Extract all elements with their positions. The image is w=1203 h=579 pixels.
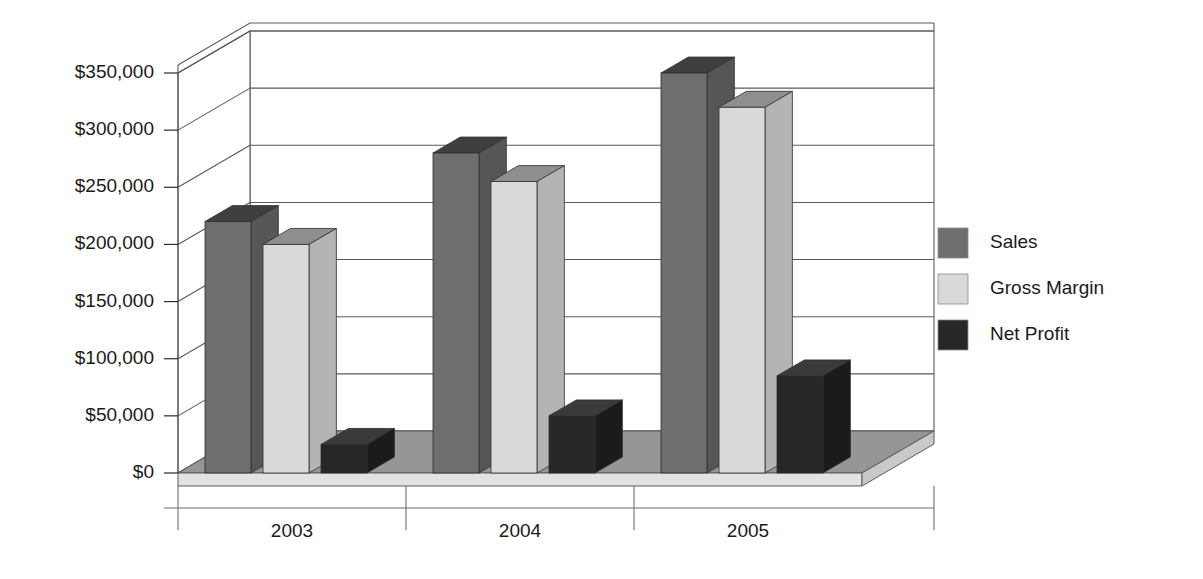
y-tick-label: $350,000 [75,61,154,82]
axis-tickmarks [164,73,178,473]
x-tick-label: 2005 [727,520,769,541]
y-tick-label: $250,000 [75,175,154,196]
legend-swatch-sales [938,228,968,258]
x-tick-label: 2003 [271,520,313,541]
y-tick-label: $150,000 [75,290,154,311]
y-tick-label: $300,000 [75,118,154,139]
bar-net-profit-2004 [549,400,622,473]
y-axis-labels: $0$50,000$100,000$150,000$200,000$250,00… [75,61,154,482]
bar-gross-margin-2003 [263,228,336,473]
y-tick-label: $50,000 [85,404,154,425]
bar-net-profit-2005 [777,360,850,473]
y-tick-label: $100,000 [75,347,154,368]
x-axis-labels: 200320042005 [271,520,769,541]
legend-label-sales: Sales [990,231,1038,252]
chart-legend: SalesGross MarginNet Profit [938,228,1104,350]
legend-label-gross-margin: Gross Margin [990,277,1104,298]
x-tick-label: 2004 [499,520,542,541]
legend-swatch-gross-margin [938,274,968,304]
bar-chart-3d: $0$50,000$100,000$150,000$200,000$250,00… [0,0,1203,579]
y-tick-label: $200,000 [75,232,154,253]
legend-swatch-net-profit [938,320,968,350]
y-tick-label: $0 [133,461,154,482]
legend-label-net-profit: Net Profit [990,323,1070,344]
chart-container: $0$50,000$100,000$150,000$200,000$250,00… [0,0,1203,579]
